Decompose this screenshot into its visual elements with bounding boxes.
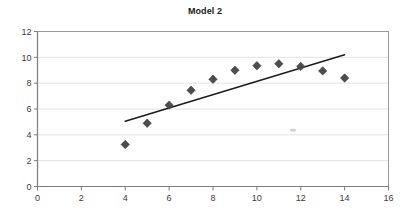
y-tick-label: 8 xyxy=(26,78,31,88)
data-point-marker xyxy=(165,101,173,109)
data-point-marker xyxy=(121,140,129,148)
x-tick-label: 8 xyxy=(210,193,215,203)
data-point-marker xyxy=(253,62,261,70)
x-tick-label: 0 xyxy=(35,193,40,203)
y-tick-label: 4 xyxy=(26,130,31,140)
y-tick-label: 0 xyxy=(26,182,31,192)
x-tick-label: 6 xyxy=(167,193,172,203)
data-point-marker xyxy=(187,86,195,94)
trendline xyxy=(125,55,344,122)
data-point-marker xyxy=(318,67,326,75)
y-tick-label: 6 xyxy=(26,104,31,114)
chart-container: Model 2 0246810120246810121416 xyxy=(0,0,410,213)
x-tick-label: 14 xyxy=(340,193,350,203)
x-tick-label: 4 xyxy=(123,193,128,203)
data-point-marker xyxy=(340,74,348,82)
y-tick-label: 12 xyxy=(21,27,31,37)
x-tick-label: 12 xyxy=(296,193,306,203)
y-tick-label: 2 xyxy=(26,156,31,166)
x-tick-label: 2 xyxy=(79,193,84,203)
data-point-marker xyxy=(209,75,217,83)
data-point-marker xyxy=(231,66,239,74)
y-tick-label: 10 xyxy=(21,53,31,63)
trendline-series xyxy=(125,55,344,122)
scan-artifact xyxy=(290,128,296,131)
x-tick-label: 10 xyxy=(252,193,262,203)
tick-marks xyxy=(34,32,389,191)
data-point-marker xyxy=(275,60,283,68)
gridlines xyxy=(38,32,389,161)
data-point-marker xyxy=(143,119,151,127)
chart-plot-area: 0246810120246810121416 xyxy=(0,0,410,213)
x-tick-label: 16 xyxy=(383,193,393,203)
axis-tick-labels: 0246810120246810121416 xyxy=(21,27,393,203)
data-point-series xyxy=(121,60,349,149)
